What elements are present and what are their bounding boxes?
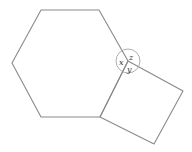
hexagon xyxy=(12,10,128,117)
geometry-diagram: x z y xyxy=(0,0,192,152)
angle-label-y: y xyxy=(126,65,132,74)
square xyxy=(100,61,183,144)
angle-label-x: x xyxy=(119,58,124,67)
angle-label-z: z xyxy=(128,53,134,62)
